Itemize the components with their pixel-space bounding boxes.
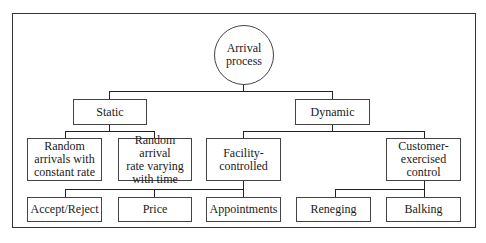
connector: [109, 91, 110, 99]
node-accept-reject: Accept/Reject: [27, 197, 102, 222]
connector: [154, 189, 155, 197]
node-label: control: [407, 166, 441, 179]
node-label: Static: [96, 106, 123, 119]
node-label: Dynamic: [311, 106, 355, 119]
node-dynamic: Dynamic: [295, 99, 370, 125]
connector: [243, 131, 425, 132]
node-random-arrivals-constant-rate: Random arrivals with constant rate: [27, 138, 102, 181]
node-label: with time: [132, 173, 178, 186]
connector: [335, 189, 336, 197]
node-label: Balking: [405, 203, 443, 216]
connector: [332, 91, 333, 99]
node-static: Static: [73, 99, 147, 125]
node-price: Price: [118, 197, 192, 222]
connector: [65, 131, 66, 138]
connector: [424, 131, 425, 138]
node-facility-controlled: Facility- controlled: [206, 138, 281, 181]
node-label: controlled: [219, 160, 268, 173]
node-label: process: [226, 55, 262, 68]
connector: [65, 189, 66, 197]
node-arrival-process: Arrival process: [214, 25, 274, 85]
node-label: rate varying: [126, 160, 184, 173]
node-appointments: Appointments: [206, 197, 281, 222]
node-label: Price: [143, 203, 168, 216]
node-customer-exercised-control: Customer- exercised control: [386, 138, 461, 181]
node-random-arrival-rate-varying: Random arrival rate varying with time: [118, 138, 192, 181]
connector: [335, 189, 425, 190]
connector: [243, 131, 244, 138]
node-label: Appointments: [210, 203, 278, 216]
node-label: constant rate: [34, 166, 95, 179]
node-label: Random arrival: [121, 134, 189, 160]
connector: [109, 91, 333, 92]
node-label: Reneging: [311, 203, 357, 216]
node-label: Accept/Reject: [31, 203, 99, 216]
node-reneging: Reneging: [296, 197, 371, 222]
node-balking: Balking: [386, 197, 461, 222]
node-label: Facility-: [223, 147, 264, 160]
